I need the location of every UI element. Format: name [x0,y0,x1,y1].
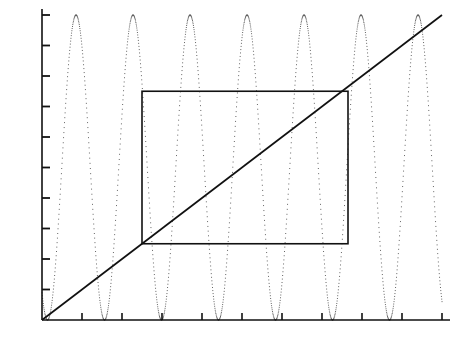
oscillation-dot [377,203,378,204]
oscillation-dot [197,66,198,67]
oscillation-dot [126,58,127,59]
oscillation-dot [426,74,427,75]
oscillation-dot [287,209,288,210]
oscillation-dot [255,77,256,78]
oscillation-dot [422,36,423,37]
oscillation-dot [89,158,90,159]
oscillation-dot [86,112,87,113]
oscillation-dot [258,128,259,129]
oscillation-dot [264,225,265,226]
oscillation-dot [81,41,82,42]
oscillation-dot [100,307,101,308]
oscillation-dot [293,112,294,113]
oscillation-dot [138,43,139,44]
oscillation-dot [102,317,103,318]
oscillation-dot [150,217,151,218]
oscillation-dot [394,301,395,302]
oscillation-dot [311,64,312,65]
oscillation-dot [126,54,127,55]
oscillation-dot [312,76,313,77]
oscillation-dot [163,317,164,318]
oscillation-dot [224,285,225,286]
oscillation-dot [219,318,220,319]
oscillation-dot [440,284,441,285]
oscillation-dot [406,130,407,131]
oscillation-dot [122,99,123,100]
oscillation-dot [138,46,139,47]
oscillation-dot [215,313,216,314]
oscillation-dot [184,42,185,43]
oscillation-dot [263,210,264,211]
oscillation-dot [399,235,400,236]
oscillation-dot [85,94,86,95]
oscillation-dot [128,33,129,34]
oscillation-dot [165,306,166,307]
oscillation-dot [233,156,234,157]
oscillation-dot [97,275,98,276]
oscillation-dot [117,185,118,186]
oscillation-dot [370,84,371,85]
oscillation-dot [244,22,245,23]
oscillation-dot [144,126,145,127]
oscillation-dot [52,295,53,296]
oscillation-dot [406,115,407,116]
oscillation-dot [70,44,71,45]
oscillation-dot [130,20,131,21]
oscillation-dot [148,187,149,188]
oscillation-dot [439,277,440,278]
oscillation-dot [92,204,93,205]
oscillation-dot [122,114,123,115]
oscillation-dot [135,22,136,23]
oscillation-dot [96,263,97,264]
oscillation-dot [166,296,167,297]
oscillation-dot [156,299,157,300]
oscillation-dot [387,317,388,318]
oscillation-dot [82,53,83,54]
oscillation-dot [430,145,431,146]
oscillation-dot [309,38,310,39]
oscillation-dot [378,213,379,214]
oscillation-dot [282,271,283,272]
oscillation-dot [286,219,287,220]
oscillation-dot [397,261,398,262]
oscillation-dot [100,305,101,306]
oscillation-dot [289,168,290,169]
oscillation-dot [396,277,397,278]
oscillation-dot [408,96,409,97]
oscillation-dot [208,231,209,232]
oscillation-dot [363,22,364,23]
oscillation-dot [440,290,441,291]
oscillation-dot [175,176,176,177]
oscillation-dot [385,302,386,303]
oscillation-dot [182,70,183,71]
oscillation-dot [385,304,386,305]
oscillation-dot [350,109,351,110]
oscillation-dot [157,302,158,303]
oscillation-dot [387,316,388,317]
oscillation-dot [149,203,150,204]
oscillation-dot [146,156,147,157]
oscillation-dot [118,169,119,170]
oscillation-dot [381,262,382,263]
oscillation-dot [357,27,358,28]
oscillation-dot [180,87,181,88]
oscillation-dot [439,273,440,274]
oscillation-dot [125,61,126,62]
oscillation-dot [357,25,358,26]
oscillation-dot [285,238,286,239]
oscillation-dot [159,316,160,317]
oscillation-dot [267,260,268,261]
oscillation-dot [50,311,51,312]
oscillation-dot [180,96,181,97]
oscillation-dot [203,150,204,151]
oscillation-dot [326,285,327,286]
oscillation-dot [100,302,101,303]
oscillation-dot [400,226,401,227]
oscillation-dot [374,146,375,147]
oscillation-dot [337,295,338,296]
oscillation-dot [138,40,139,41]
oscillation-dot [97,271,98,272]
oscillation-dot [250,29,251,30]
oscillation-dot [150,227,151,228]
oscillation-dot [416,18,417,19]
